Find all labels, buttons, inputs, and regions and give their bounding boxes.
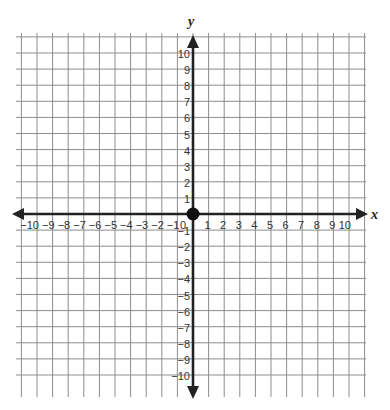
y-tick-label: −10 bbox=[171, 370, 190, 382]
y-tick-label: −5 bbox=[177, 290, 190, 302]
y-axis-down-arrow-icon bbox=[187, 386, 199, 399]
x-axis-label: x bbox=[370, 207, 378, 222]
y-tick-label: −3 bbox=[177, 257, 190, 269]
y-tick-label: 7 bbox=[184, 96, 190, 108]
x-tick-label: 3 bbox=[236, 219, 242, 231]
y-tick-label: −8 bbox=[177, 338, 190, 350]
y-axis-label: y bbox=[186, 14, 195, 29]
x-tick-label: −4 bbox=[120, 219, 133, 231]
x-tick-label: −6 bbox=[89, 219, 102, 231]
x-tick-label: 2 bbox=[220, 219, 226, 231]
origin-label: 0 bbox=[180, 219, 186, 231]
y-tick-label: 6 bbox=[184, 112, 190, 124]
y-tick-label: 8 bbox=[184, 80, 190, 92]
x-tick-label: −7 bbox=[73, 219, 86, 231]
x-tick-label: −9 bbox=[42, 219, 55, 231]
x-tick-label: 10 bbox=[339, 219, 351, 231]
x-axis-right-arrow-icon bbox=[356, 208, 368, 220]
y-tick-label: −7 bbox=[177, 322, 190, 334]
y-tick-label: 9 bbox=[184, 64, 190, 76]
y-tick-label: 3 bbox=[184, 161, 190, 173]
y-tick-label: −4 bbox=[177, 273, 190, 285]
x-tick-label: −5 bbox=[104, 219, 117, 231]
x-tick-label: 7 bbox=[298, 219, 304, 231]
y-tick-label: 2 bbox=[184, 177, 190, 189]
x-tick-label: −8 bbox=[58, 219, 71, 231]
x-tick-label: 1 bbox=[204, 219, 210, 231]
origin-point bbox=[187, 208, 200, 221]
x-tick-label: 5 bbox=[267, 219, 273, 231]
y-tick-label: 1 bbox=[184, 193, 190, 205]
x-tick-label: −3 bbox=[136, 219, 149, 231]
coordinate-plane: −10−9−8−7−6−5−4−3−2−11234567891010987654… bbox=[0, 0, 390, 410]
x-tick-label: 8 bbox=[314, 219, 320, 231]
x-tick-label: 4 bbox=[251, 219, 257, 231]
y-tick-label: −2 bbox=[177, 241, 190, 253]
y-tick-label: 5 bbox=[184, 129, 190, 141]
x-tick-label: 6 bbox=[282, 219, 288, 231]
x-tick-label: 9 bbox=[329, 219, 335, 231]
y-tick-label: −9 bbox=[177, 354, 190, 366]
y-tick-label: 10 bbox=[178, 48, 190, 60]
x-tick-label: −2 bbox=[151, 219, 164, 231]
y-tick-label: −6 bbox=[177, 306, 190, 318]
x-tick-label: −10 bbox=[20, 219, 39, 231]
y-tick-label: 4 bbox=[184, 145, 190, 157]
